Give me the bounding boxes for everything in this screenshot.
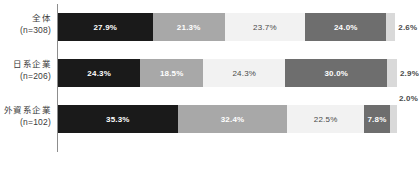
- segment-value-label: 24.3%: [87, 69, 111, 78]
- segment-value-label: 2.0%: [399, 94, 418, 103]
- row-category-name: 日系企業: [1, 59, 51, 71]
- stacked-bar: 35.3% 32.4% 22.5% 7.8% 2.0%: [58, 105, 397, 133]
- stacked-bar: 24.3% 18.5% 24.3% 30.0% 2.9%: [58, 59, 397, 87]
- bar-segment: 2.9%: [387, 59, 397, 87]
- segment-value-label: 27.9%: [93, 23, 117, 32]
- segment-value-label: 22.5%: [314, 115, 338, 124]
- plot-area: 全体 (n=308) 27.9% 21.3% 23.7% 24.0% 2.6%: [57, 5, 398, 155]
- chart-row: 日系企業 (n=206) 24.3% 18.5% 24.3% 30.0% 2.9…: [57, 59, 398, 105]
- bar-segment: 24.3%: [58, 59, 140, 87]
- bar-segment: 21.3%: [153, 13, 225, 41]
- chart-row: 全体 (n=308) 27.9% 21.3% 23.7% 24.0% 2.6%: [57, 13, 398, 59]
- bar-segment: 7.8%: [364, 105, 390, 133]
- segment-value-label: 2.9%: [400, 69, 419, 78]
- bar-segment: 35.3%: [58, 105, 178, 133]
- bar-segment: 2.6%: [386, 13, 395, 41]
- bar-segment: 2.0%: [390, 105, 397, 133]
- row-sample-size: (n=102): [1, 117, 51, 129]
- segment-value-label: 2.6%: [398, 23, 417, 32]
- row-category-name: 全体: [1, 13, 51, 25]
- bar-segment: 27.9%: [58, 13, 153, 41]
- row-category-label: 全体 (n=308): [1, 13, 57, 36]
- bar-segment: 22.5%: [287, 105, 363, 133]
- segment-value-label: 35.3%: [106, 115, 130, 124]
- segment-value-label: 23.7%: [253, 23, 277, 32]
- row-category-label: 外資系企業 (n=102): [1, 105, 57, 128]
- segment-value-label: 24.3%: [232, 69, 256, 78]
- segment-value-label: 30.0%: [324, 69, 348, 78]
- segment-value-label: 18.5%: [160, 69, 184, 78]
- row-category-name: 外資系企業: [1, 105, 51, 117]
- segment-value-label: 24.0%: [334, 23, 358, 32]
- stacked-bar: 27.9% 21.3% 23.7% 24.0% 2.6%: [58, 13, 397, 41]
- chart-row: 外資系企業 (n=102) 35.3% 32.4% 22.5% 7.8% 2.0…: [57, 105, 398, 151]
- row-sample-size: (n=308): [1, 25, 51, 37]
- row-sample-size: (n=206): [1, 71, 51, 83]
- segment-value-label: 7.8%: [367, 115, 386, 124]
- bar-segment: 24.0%: [305, 13, 386, 41]
- row-category-label: 日系企業 (n=206): [1, 59, 57, 82]
- bar-segment: 30.0%: [285, 59, 387, 87]
- bar-segment: 24.3%: [203, 59, 285, 87]
- segment-value-label: 21.3%: [177, 23, 201, 32]
- bar-segment: 32.4%: [178, 105, 288, 133]
- bar-segment: 23.7%: [225, 13, 305, 41]
- bar-segment: 18.5%: [140, 59, 203, 87]
- segment-value-label: 32.4%: [221, 115, 245, 124]
